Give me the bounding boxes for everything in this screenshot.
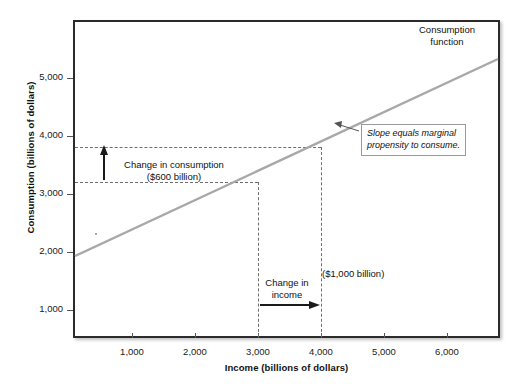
- slope-callout-line1: Slope equals marginal: [367, 128, 460, 140]
- x-tick-label-3000: 3,000: [228, 346, 288, 357]
- x-tick-mark-5000: [384, 333, 385, 338]
- change-in-income-label: Change in income: [248, 277, 326, 301]
- consumption-function-label: Consumption function: [399, 24, 495, 48]
- consumption-function-label-line2: function: [399, 36, 495, 48]
- change-in-consumption-amount: ($600 billion): [98, 171, 250, 183]
- y-tick-mark-5000: [67, 78, 73, 79]
- y-tick-mark-4000: [67, 136, 73, 137]
- y-tick-label-3000: 3,000: [39, 187, 63, 198]
- change-in-income-text-line2: income: [248, 289, 326, 301]
- guide-line-income-4000: [321, 147, 322, 337]
- y-tick-mark-3000: [67, 194, 73, 195]
- y-tick-label-5000: 5,000: [39, 71, 63, 82]
- y-tick-mark-2000: [67, 252, 73, 253]
- change-in-consumption-label: Change in consumption ($600 billion): [98, 159, 250, 183]
- x-tick-label-1000: 1,000: [102, 346, 162, 357]
- consumption-function-chart: Consumption (billions of dollars) Income…: [0, 0, 522, 387]
- change-in-consumption-text: Change in consumption: [98, 159, 250, 171]
- x-tick-label-4000: 4,000: [291, 346, 351, 357]
- change-in-income-amount: ($1,000 billion): [322, 268, 384, 280]
- x-tick-label-6000: 6,000: [417, 346, 477, 357]
- x-tick-mark-1000: [132, 333, 133, 338]
- slope-callout-box: Slope equals marginal propensity to cons…: [361, 124, 466, 156]
- guide-line-consumption-3800: [75, 147, 321, 148]
- x-tick-mark-6000: [447, 333, 448, 338]
- guide-line-income-3000: [258, 182, 259, 337]
- y-tick-mark-1000: [67, 310, 73, 311]
- x-tick-mark-2000: [195, 333, 196, 338]
- x-tick-label-2000: 2,000: [165, 346, 225, 357]
- scan-speck: [95, 233, 97, 235]
- x-axis-title: Income (billions of dollars): [73, 362, 500, 373]
- slope-callout-line2: propensity to consume.: [367, 140, 460, 152]
- change-in-income-text-line1: Change in: [248, 277, 326, 289]
- y-tick-label-4000: 4,000: [39, 129, 63, 140]
- x-tick-label-5000: 5,000: [354, 346, 414, 357]
- consumption-function-label-line1: Consumption: [399, 24, 495, 36]
- y-tick-label-1000: 1,000: [39, 303, 63, 314]
- y-tick-label-2000: 2,000: [39, 245, 63, 256]
- y-axis-title: Consumption (billions of dollars): [25, 38, 36, 278]
